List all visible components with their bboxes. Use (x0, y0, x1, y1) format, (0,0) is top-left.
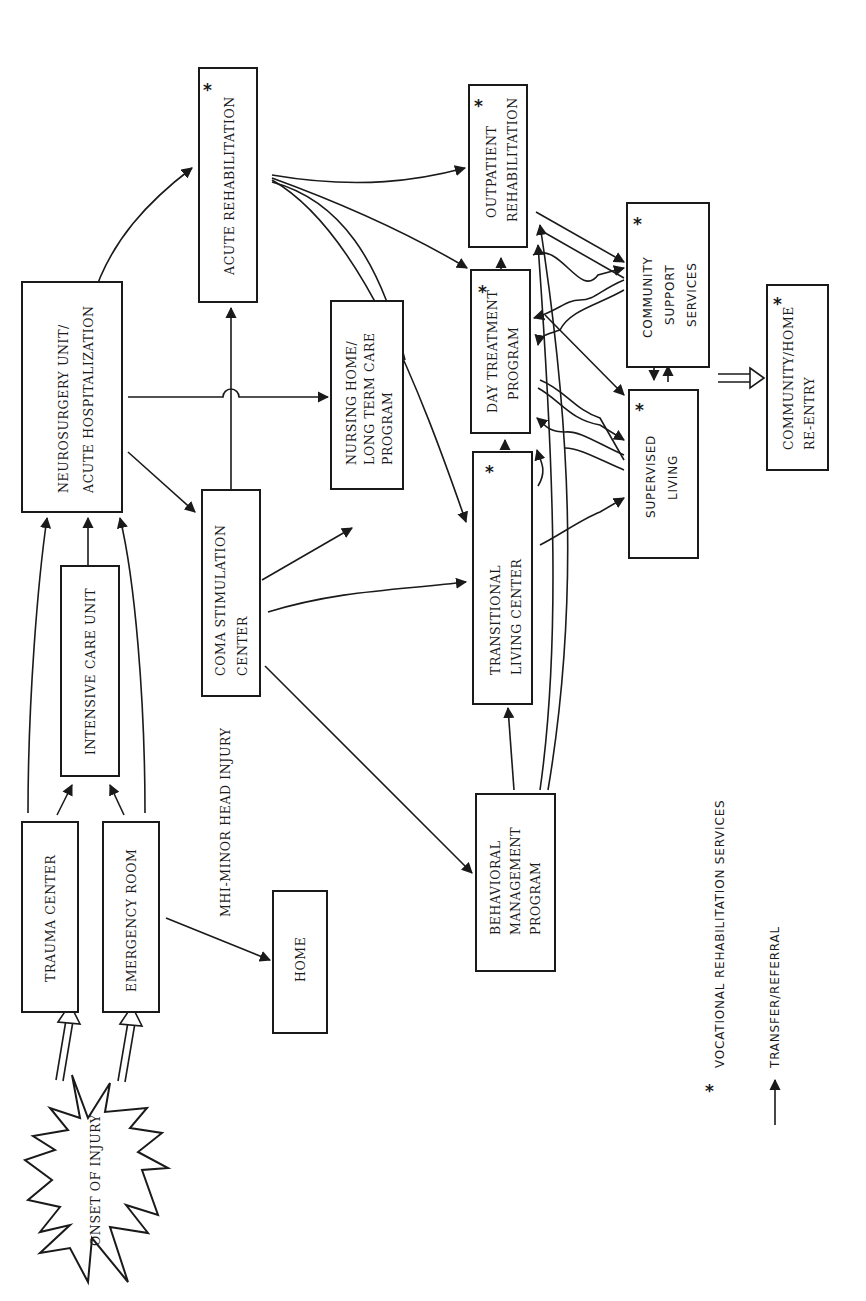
acute-rehabilitation-node: * ACUTE REHABILITATION (199, 68, 257, 302)
coma-label-line2: CENTER (235, 616, 250, 676)
icu-label: INTENSIVE CARE UNIT (83, 588, 98, 755)
outpatient-label-line1: OUTPATIENT (484, 126, 499, 218)
legend-transfer-text: TRANSFER/REFERRAL (768, 926, 782, 1069)
behavioral-label-line1: BEHAVIORAL (488, 840, 503, 935)
day-treatment-node: * DAY TREATMENT PROGRAM (471, 270, 530, 433)
nursing-home-label-line2: LONG TERM CARE (362, 332, 377, 465)
nursing-home-label-line1: NURSING HOME/ (344, 340, 359, 465)
transitional-label-line2: LIVING CENTER (509, 559, 524, 675)
mhi-annotation: MHI-MINOR HEAD INJURY (218, 727, 233, 917)
home-node: HOME (273, 891, 327, 1033)
vocational-star-icon: * (485, 462, 494, 482)
vocational-star-icon: * (635, 400, 644, 420)
nursing-home-node: NURSING HOME/ LONG TERM CARE PROGRAM (331, 301, 403, 489)
community-support-node: * COMMUNITY SUPPORT SERVICES (627, 203, 709, 367)
day-treatment-label-line1: DAY TREATMENT (485, 290, 500, 413)
outpatient-label-line2: REHABILITATION (505, 97, 520, 222)
community-home-reentry-node: * COMMUNITY/HOME RE-ENTRY (767, 285, 828, 470)
icu-node: INTENSIVE CARE UNIT (61, 566, 119, 776)
onset-of-injury-node: ONSET OF INJURY (25, 1075, 168, 1282)
supervised-living-node: * SUPERVISED LIVING (629, 390, 698, 558)
vocational-star-icon: * (633, 214, 642, 234)
behavioral-label-line2: MANAGEMENT (508, 827, 523, 935)
nursing-home-label-line3: PROGRAM (380, 392, 395, 466)
onset-label: ONSET OF INJURY (88, 1114, 103, 1246)
day-treatment-label-line2: PROGRAM (506, 327, 521, 401)
behavioral-management-node: BEHAVIORAL MANAGEMENT PROGRAM (476, 794, 555, 971)
double-arrow-onset-to-trauma (56, 1004, 80, 1081)
neurosurgery-node: NEUROSURGERY UNIT/ ACUTE HOSPITALIZATION (22, 282, 122, 512)
neurosurgery-label-line1: NEUROSURGERY UNIT/ (56, 324, 71, 493)
coma-label-line1: COMA STIMULATION (213, 525, 228, 677)
legend: * VOCATIONAL REHABILITATION SERVICES TRA… (705, 800, 782, 1125)
double-arrow-onset-to-emergency (118, 1006, 142, 1082)
community-support-label-line1: COMMUNITY (641, 256, 655, 338)
legend-star-icon: * (705, 1081, 714, 1101)
neurosurgery-label-line2: ACUTE HOSPITALIZATION (81, 305, 96, 494)
emergency-room-node: EMERGENCY ROOM (103, 822, 159, 1012)
transitional-label-line1: TRANSITIONAL (488, 565, 503, 675)
care-pathway-diagram: ONSET OF INJURY TRAUMA CENTER EMERGENCY … (0, 0, 866, 1301)
double-arrow-to-reentry (718, 368, 764, 388)
supervised-living-label-line2: LIVING (666, 455, 680, 500)
acute-rehabilitation-label: ACUTE REHABILITATION (222, 96, 237, 276)
community-support-label-line3: SERVICES (685, 262, 699, 327)
outpatient-rehabilitation-node: * OUTPATIENT REHABILITATION (469, 85, 527, 247)
trauma-center-label: TRAUMA CENTER (43, 855, 58, 982)
trauma-center-node: TRAUMA CENTER (22, 822, 78, 1012)
behavioral-label-line3: PROGRAM (528, 862, 543, 936)
home-label: HOME (293, 937, 308, 982)
emergency-room-label: EMERGENCY ROOM (124, 849, 139, 992)
legend-vocational-text: VOCATIONAL REHABILITATION SERVICES (713, 800, 727, 1068)
vocational-star-icon: * (203, 80, 212, 100)
reentry-label-line2: RE-ENTRY (802, 376, 817, 450)
community-support-label-line2: SUPPORT (663, 264, 677, 325)
coma-stimulation-node: COMA STIMULATION CENTER (202, 490, 260, 696)
supervised-living-label-line1: SUPERVISED (644, 435, 658, 518)
vocational-star-icon: * (474, 96, 483, 116)
transitional-living-node: * TRANSITIONAL LIVING CENTER (473, 452, 532, 704)
reentry-label-line1: COMMUNITY/HOME (781, 306, 796, 450)
